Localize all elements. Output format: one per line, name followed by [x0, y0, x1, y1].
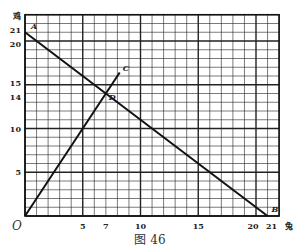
line-AB — [25, 32, 268, 216]
y-tick-label: 20 — [10, 39, 22, 49]
diagram: ABCD212015141055710152021O鸡兔图 46 — [0, 0, 301, 252]
line-OC — [25, 73, 120, 217]
y-tick-label: 5 — [15, 167, 21, 177]
point-label-A: A — [30, 21, 37, 31]
figure-caption: 图 46 — [134, 233, 165, 247]
x-tick-label: 21 — [266, 221, 277, 231]
x-tick-label: 10 — [135, 221, 147, 231]
y-tick-label: 10 — [10, 124, 22, 134]
point-label-B: B — [271, 204, 279, 214]
x-tick-label: 15 — [193, 221, 204, 231]
x-axis-label: 兔 — [284, 221, 293, 231]
x-tick-label: 5 — [80, 221, 86, 231]
origin-label: O — [12, 219, 22, 233]
x-tick-label: 7 — [103, 221, 109, 231]
point-label-C: C — [123, 63, 130, 73]
y-tick-label: 15 — [10, 78, 21, 88]
x-tick-label: 20 — [247, 221, 259, 231]
y-tick-label: 21 — [10, 25, 21, 35]
y-axis-label: 鸡 — [12, 11, 21, 21]
point-label-D: D — [108, 92, 116, 102]
y-tick-label: 14 — [10, 92, 22, 102]
